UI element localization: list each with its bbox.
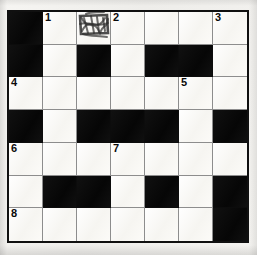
crossword-open-cell[interactable] xyxy=(43,143,77,176)
crossword-open-cell[interactable] xyxy=(179,12,213,45)
clue-number: 1 xyxy=(45,11,51,24)
crossword-open-cell[interactable] xyxy=(179,110,213,143)
crossword-open-cell[interactable] xyxy=(179,208,213,241)
crossword-open-cell[interactable]: 7 xyxy=(111,143,145,176)
crossword-open-cell[interactable]: 5 xyxy=(179,77,213,110)
crossword-open-cell[interactable] xyxy=(9,176,43,209)
crossword-block-cell xyxy=(213,110,247,143)
crossword-open-cell[interactable] xyxy=(213,45,247,78)
crossword-open-cell[interactable] xyxy=(77,143,111,176)
clue-number: 3 xyxy=(215,11,221,24)
crossword-open-cell[interactable]: 3 xyxy=(213,12,247,45)
crossword-block-cell xyxy=(77,176,111,209)
crossword-open-cell[interactable] xyxy=(145,77,179,110)
crossword-open-cell[interactable] xyxy=(43,208,77,241)
crossword-open-cell[interactable]: 2 xyxy=(111,12,145,45)
crossword-open-cell[interactable] xyxy=(145,143,179,176)
crossword-open-cell[interactable] xyxy=(111,208,145,241)
crossword-open-cell[interactable] xyxy=(145,208,179,241)
clue-number: 5 xyxy=(181,76,187,89)
clue-number: 7 xyxy=(113,142,119,155)
crossword-cell-container: 12345678 xyxy=(9,12,247,241)
clue-number: 8 xyxy=(11,207,17,220)
crossword-open-cell[interactable]: 6 xyxy=(9,143,43,176)
crossword-open-cell[interactable] xyxy=(111,45,145,78)
crossword-block-cell xyxy=(77,110,111,143)
crossword-block-cell xyxy=(145,176,179,209)
pencil-scribble-mark xyxy=(74,6,114,46)
crossword-open-cell[interactable] xyxy=(213,77,247,110)
crossword-block-cell xyxy=(77,45,111,78)
crossword-block-cell xyxy=(145,45,179,78)
crossword-open-cell[interactable] xyxy=(43,45,77,78)
crossword-open-cell[interactable] xyxy=(179,176,213,209)
crossword-open-cell[interactable]: 1 xyxy=(43,12,77,45)
crossword-open-cell[interactable]: 8 xyxy=(9,208,43,241)
crossword-block-cell xyxy=(145,110,179,143)
crossword-block-cell xyxy=(9,12,43,45)
crossword-grid[interactable]: 12345678 xyxy=(7,10,249,243)
crossword-open-cell[interactable] xyxy=(111,77,145,110)
crossword-open-cell[interactable] xyxy=(43,110,77,143)
clue-number: 4 xyxy=(11,76,17,89)
crossword-block-cell xyxy=(179,45,213,78)
crossword-open-cell[interactable] xyxy=(111,176,145,209)
crossword-open-cell[interactable] xyxy=(77,12,111,45)
crossword-open-cell[interactable]: 4 xyxy=(9,77,43,110)
crossword-open-cell[interactable] xyxy=(179,143,213,176)
crossword-block-cell xyxy=(213,208,247,241)
crossword-open-cell[interactable] xyxy=(43,77,77,110)
clue-number: 6 xyxy=(11,142,17,155)
crossword-block-cell xyxy=(9,45,43,78)
crossword-open-cell[interactable] xyxy=(77,208,111,241)
crossword-block-cell xyxy=(43,176,77,209)
crossword-block-cell xyxy=(9,110,43,143)
crossword-block-cell xyxy=(111,110,145,143)
crossword-open-cell[interactable] xyxy=(145,12,179,45)
crossword-block-cell xyxy=(213,176,247,209)
crossword-open-cell[interactable] xyxy=(77,77,111,110)
crossword-open-cell[interactable] xyxy=(213,143,247,176)
clue-number: 2 xyxy=(113,11,119,24)
